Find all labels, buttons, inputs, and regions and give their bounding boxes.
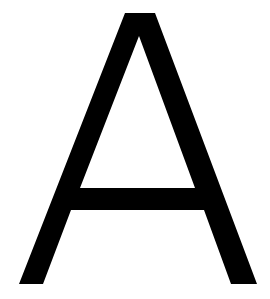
letter-a-glyph	[0, 0, 270, 299]
